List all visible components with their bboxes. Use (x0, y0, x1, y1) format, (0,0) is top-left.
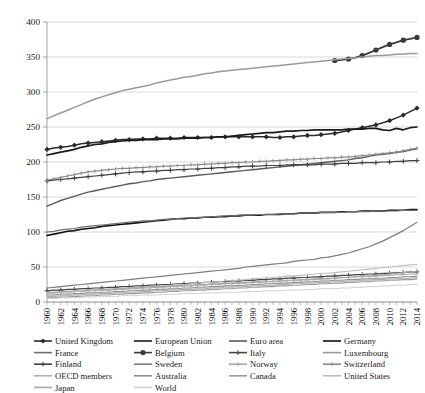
legend-item[interactable]: Finland (34, 359, 82, 369)
svg-text:2014: 2014 (412, 307, 422, 325)
series-layer (44, 35, 419, 299)
svg-text:1986: 1986 (220, 307, 230, 325)
series-line (47, 274, 417, 292)
svg-text:2004: 2004 (344, 307, 354, 325)
legend-label: Luxembourg (344, 348, 389, 358)
legend-label: World (155, 383, 177, 393)
legend-item[interactable]: Italy (229, 348, 266, 358)
svg-text:1984: 1984 (207, 307, 217, 325)
svg-text:1994: 1994 (275, 307, 285, 325)
legend-item[interactable]: Japan (34, 383, 75, 393)
svg-text:400: 400 (26, 17, 40, 27)
svg-text:1974: 1974 (138, 307, 148, 325)
svg-text:1982: 1982 (193, 308, 203, 325)
svg-text:1990: 1990 (248, 308, 258, 325)
chart-container: 050100150200250300350400 196019621964196… (0, 0, 425, 393)
legend-label: Switzerland (344, 359, 386, 369)
svg-text:350: 350 (26, 52, 40, 62)
legend-label: Japan (55, 383, 75, 393)
svg-text:1980: 1980 (179, 308, 189, 325)
svg-text:2006: 2006 (357, 307, 367, 325)
svg-text:0: 0 (35, 297, 40, 307)
legend-label: Euro area (250, 336, 283, 346)
x-axis: 1960196219641966196819701972197419761978… (42, 302, 422, 325)
legend-item[interactable]: France (34, 348, 79, 358)
legend-label: Belgium (155, 348, 185, 358)
legend-label: Norway (250, 359, 278, 369)
series-line (47, 210, 417, 236)
line-chart: 050100150200250300350400 196019621964196… (0, 0, 425, 393)
svg-text:1970: 1970 (111, 308, 121, 325)
svg-text:1988: 1988 (234, 308, 244, 325)
svg-text:1964: 1964 (70, 307, 80, 325)
svg-text:250: 250 (26, 122, 40, 132)
svg-text:100: 100 (26, 227, 40, 237)
legend-label: Sweden (155, 359, 183, 369)
series-line (47, 210, 417, 232)
legend-item[interactable]: Norway (229, 359, 278, 369)
svg-text:1998: 1998 (303, 308, 313, 325)
legend-label: United States (344, 371, 391, 381)
legend-item[interactable]: Belgium (134, 348, 185, 358)
series-line (47, 149, 417, 206)
legend-item[interactable]: Euro area (229, 336, 283, 346)
legend-label: France (55, 348, 79, 358)
legend-item[interactable]: United States (323, 371, 391, 381)
svg-text:200: 200 (26, 157, 40, 167)
legend-label: OECD members (55, 371, 113, 381)
svg-text:2010: 2010 (385, 308, 395, 325)
svg-text:1966: 1966 (83, 307, 93, 325)
legend-item[interactable]: European Union (134, 336, 212, 346)
legend-label: Finland (55, 359, 82, 369)
svg-text:1978: 1978 (166, 308, 176, 325)
chart-legend: United KingdomFranceFinlandOECD membersJ… (34, 336, 391, 392)
legend-label: European Union (155, 336, 212, 346)
svg-text:1968: 1968 (97, 308, 107, 325)
svg-text:1972: 1972 (124, 308, 134, 325)
legend-label: United Kingdom (55, 336, 113, 346)
legend-item[interactable]: Germany (323, 336, 377, 346)
legend-item[interactable]: World (134, 383, 177, 393)
svg-text:2002: 2002 (330, 308, 340, 325)
legend-label: Australia (155, 371, 187, 381)
svg-text:150: 150 (26, 192, 40, 202)
svg-text:2012: 2012 (398, 308, 408, 325)
svg-text:300: 300 (26, 87, 40, 97)
svg-text:2008: 2008 (371, 308, 381, 325)
legend-label: Italy (250, 348, 266, 358)
svg-text:1962: 1962 (56, 308, 66, 325)
legend-item[interactable]: United Kingdom (34, 336, 113, 346)
svg-text:1996: 1996 (289, 307, 299, 325)
series-line (47, 285, 417, 299)
svg-text:1976: 1976 (152, 307, 162, 325)
series-line (47, 54, 417, 119)
legend-item[interactable]: Sweden (134, 359, 183, 369)
legend-item[interactable]: Switzerland (323, 359, 386, 369)
series-line (47, 146, 417, 182)
legend-item[interactable]: Canada (229, 371, 276, 381)
legend-item[interactable]: Australia (134, 371, 187, 381)
svg-text:1992: 1992 (261, 308, 271, 325)
legend-item[interactable]: OECD members (34, 371, 113, 381)
svg-text:1960: 1960 (42, 308, 52, 325)
legend-label: Germany (344, 336, 377, 346)
legend-item[interactable]: Luxembourg (323, 348, 389, 358)
legend-label: Canada (250, 371, 276, 381)
svg-text:2000: 2000 (316, 308, 326, 325)
svg-text:50: 50 (31, 262, 41, 272)
